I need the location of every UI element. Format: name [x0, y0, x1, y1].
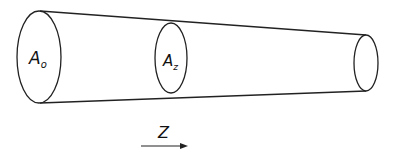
outlet-cross-section — [354, 35, 378, 91]
z-axis-label: Z — [157, 123, 170, 142]
tube-top-edge — [40, 11, 366, 35]
z-axis-arrow-head — [180, 143, 188, 149]
tube-bottom-edge — [40, 91, 366, 103]
tapered-tube-diagram: Ao Az Z — [0, 0, 394, 162]
